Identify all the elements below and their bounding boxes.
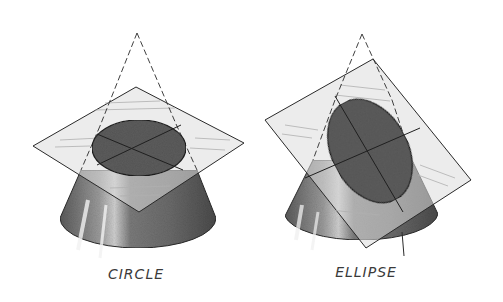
label-circle: CIRCLE [108,266,164,282]
label-ellipse: ELLIPSE [335,264,397,280]
ellipse-figure [265,34,471,256]
circle-figure [33,33,244,262]
conic-sections-diagram [0,0,503,302]
section-circle [92,120,186,176]
